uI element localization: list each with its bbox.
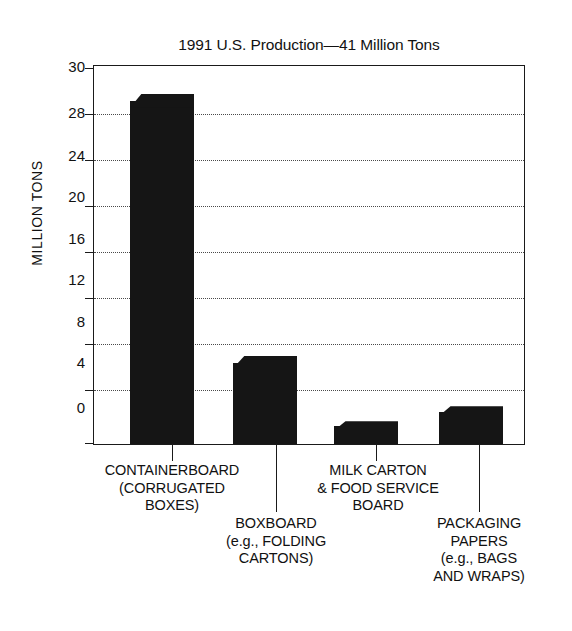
x-tick-mark-containerboard xyxy=(172,445,173,461)
label-line-1: BOXBOARD xyxy=(170,515,382,533)
label-line-1: PACKAGING xyxy=(389,515,569,533)
x-tick-mark-milk-carton xyxy=(376,445,377,461)
y-tick-mark-28 xyxy=(85,114,94,115)
y-axis-title: MILLION TONS xyxy=(29,128,45,298)
bar-top-bevel xyxy=(334,421,398,430)
y-tick-mark-4 xyxy=(85,390,94,391)
y-tick-label-12: 12 xyxy=(51,272,85,287)
y-tick-mark-16 xyxy=(85,252,94,253)
bar-chart-figure: 1991 U.S. Production—41 Million Tons MIL… xyxy=(0,0,572,631)
leader-line-packaging-papers xyxy=(479,461,480,512)
bar-face xyxy=(130,101,194,444)
y-tick-mark-24 xyxy=(85,160,94,161)
bar-boxboard[interactable] xyxy=(233,356,297,444)
y-tick-label-4: 4 xyxy=(51,355,85,370)
y-tick-label-24: 24 xyxy=(51,148,85,163)
label-line-3: CARTONS) xyxy=(170,550,382,568)
x-tick-mark-boxboard xyxy=(276,445,277,461)
bar-top-bevel xyxy=(130,94,194,108)
category-label-boxboard: BOXBOARD (e.g., FOLDING CARTONS) xyxy=(170,515,382,568)
y-tick-label-16: 16 xyxy=(51,231,85,246)
x-tick-mark-packaging-papers xyxy=(479,445,480,461)
category-label-milk-carton: MILK CARTON & FOOD SERVICE BOARD xyxy=(288,462,468,515)
bar-top-bevel xyxy=(439,406,503,416)
y-tick-label-20: 20 xyxy=(51,189,85,204)
label-line-2: (CORRUGATED xyxy=(62,480,282,498)
label-line-4: AND WRAPS) xyxy=(389,568,569,586)
label-line-2: & FOOD SERVICE xyxy=(288,480,468,498)
bar-face xyxy=(439,412,503,444)
y-tick-mark-12 xyxy=(85,298,94,299)
y-tick-label-8: 8 xyxy=(51,314,85,329)
label-line-3: (e.g., BAGS xyxy=(389,550,569,568)
plot-area xyxy=(93,65,525,445)
label-line-1: CONTAINERBOARD xyxy=(62,462,282,480)
y-tick-label-28: 28 xyxy=(51,105,85,120)
bar-containerboard[interactable] xyxy=(130,94,194,444)
category-label-packaging-papers: PACKAGING PAPERS (e.g., BAGS AND WRAPS) xyxy=(389,515,569,585)
label-line-1: MILK CARTON xyxy=(288,462,468,480)
y-tick-mark-8 xyxy=(85,344,94,345)
bar-face xyxy=(233,363,297,444)
label-line-3: BOARD xyxy=(288,497,468,515)
chart-title: 1991 U.S. Production—41 Million Tons xyxy=(93,36,525,54)
y-tick-label-0: 0 xyxy=(51,400,85,415)
bar-top-bevel xyxy=(233,356,297,368)
bar-packaging-papers[interactable] xyxy=(439,406,503,444)
category-label-containerboard: CONTAINERBOARD (CORRUGATED BOXES) xyxy=(62,462,282,515)
y-tick-mark-20 xyxy=(85,206,94,207)
y-tick-mark-0 xyxy=(85,443,94,444)
y-tick-label-30: 30 xyxy=(51,59,85,74)
label-line-2: PAPERS xyxy=(389,533,569,551)
bar-milk-carton[interactable] xyxy=(334,421,398,444)
label-line-3: BOXES) xyxy=(62,497,282,515)
label-line-2: (e.g., FOLDING xyxy=(170,533,382,551)
y-tick-mark-30 xyxy=(85,68,94,69)
